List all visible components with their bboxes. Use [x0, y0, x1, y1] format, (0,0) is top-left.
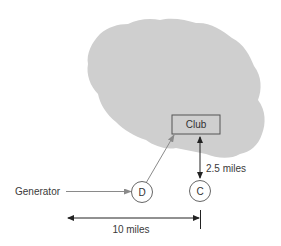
club-box: Club — [172, 115, 220, 134]
node-d: D — [132, 182, 153, 203]
node-d-label: D — [138, 187, 145, 198]
node-c-label: C — [196, 186, 203, 197]
diagram-canvas: Club 2.5 miles Generator D C 10 miles — [0, 0, 281, 246]
club-label: Club — [186, 119, 207, 130]
generator-label: Generator — [15, 186, 61, 197]
cloud-region — [87, 19, 264, 158]
distance-label-vertical: 2.5 miles — [206, 163, 246, 174]
distance-label-horizontal: 10 miles — [112, 224, 149, 235]
node-c: C — [190, 181, 211, 202]
